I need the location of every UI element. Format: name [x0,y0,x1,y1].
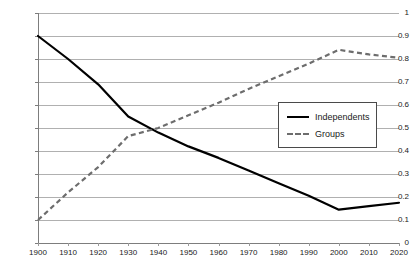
legend-label-groups: Groups [315,129,345,139]
legend-solid-line-icon [287,112,309,122]
legend-label-independents: Independents [315,112,370,122]
chart-legend: Independents Groups [278,102,377,148]
legend-entry-independents: Independents [287,110,370,124]
legend-entry-groups: Groups [287,127,345,141]
legend-dashed-line-icon [287,129,309,139]
